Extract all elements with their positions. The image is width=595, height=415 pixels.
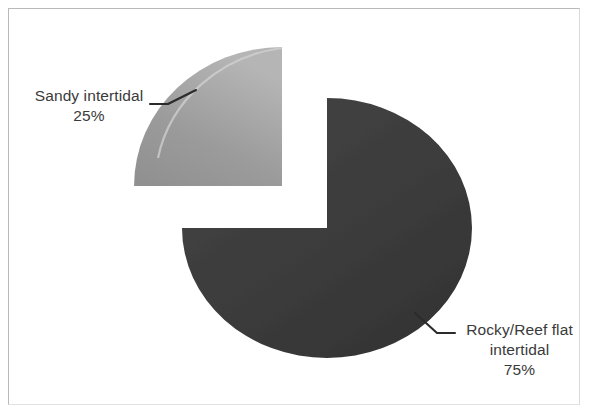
slice-label-rocky-reef-flat-intertidal: Rocky/Reef flat intertidal 75% — [452, 320, 587, 380]
slice-label-sandy-intertidal: Sandy intertidal 25% — [14, 86, 164, 126]
slice-label-sandy-percent: 25% — [14, 106, 164, 126]
slice-label-rocky-percent: 75% — [452, 360, 587, 380]
slice-label-rocky-name-line2: intertidal — [452, 340, 587, 360]
slice-label-sandy-name: Sandy intertidal — [14, 86, 164, 106]
pie-chart-figure: Sandy intertidal 25% Rocky/Reef flat int… — [0, 0, 595, 415]
slice-label-rocky-name-line1: Rocky/Reef flat — [452, 320, 587, 340]
